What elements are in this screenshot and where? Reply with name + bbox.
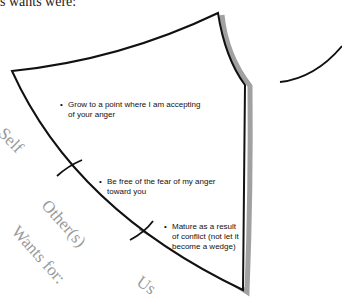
bullet-dot-icon: • (99, 177, 102, 187)
adjacent-arc (280, 46, 342, 82)
wedge-diagram (0, 0, 342, 297)
bullet-dot-icon: • (60, 100, 63, 110)
bullet-us: • Mature as a result of conflict (not le… (172, 222, 239, 252)
bullet-others: • Be free of the fear of my anger toward… (107, 177, 216, 197)
bullet-dot-icon: • (164, 222, 167, 232)
bullet-self: • Grow to a point where I am accepting o… (68, 100, 201, 120)
